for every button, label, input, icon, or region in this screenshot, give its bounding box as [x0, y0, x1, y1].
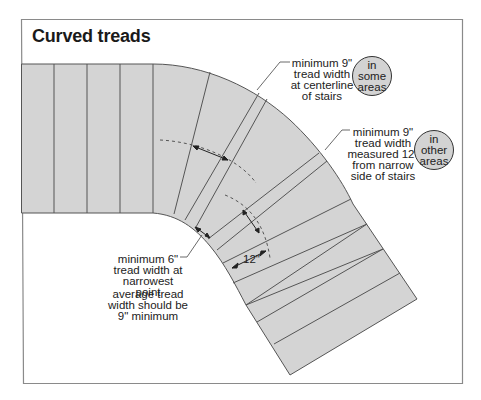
note-line: 9" minimum: [108, 311, 188, 322]
curved-stairs-diagram: [0, 0, 481, 400]
stair-outline: [22, 64, 418, 375]
dimension-12in: 12": [243, 253, 260, 265]
measured-note: minimum 9" tread width measured 12" from…: [347, 127, 419, 182]
note-line: side of stairs: [347, 171, 419, 182]
badge-line: in some: [353, 60, 391, 82]
badge-other-areas: in other areas: [414, 130, 454, 170]
diagram-title: Curved treads: [32, 26, 150, 47]
centerline-note: minimum 9" tread width at centerline of …: [288, 58, 356, 102]
badge-line: in other: [415, 134, 453, 156]
badge-line: areas: [415, 156, 453, 167]
badge-line: areas: [353, 82, 391, 93]
badge-some-areas: in some areas: [352, 56, 392, 96]
note-line: of stairs: [288, 91, 356, 102]
average-note: average tread width should be 9" minimum: [108, 289, 188, 322]
